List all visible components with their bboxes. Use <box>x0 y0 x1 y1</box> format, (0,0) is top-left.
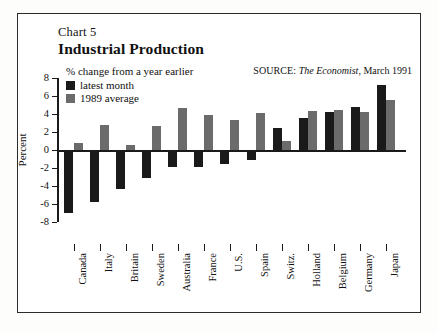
x-axis-tick-label: Holland <box>312 253 323 287</box>
x-axis-tick <box>386 244 387 251</box>
bar-group <box>351 78 377 222</box>
bar-latest-month <box>273 128 282 150</box>
x-axis-tick <box>100 244 101 251</box>
bar-group <box>325 78 351 222</box>
plot-area: 86420-2-4-6-8 <box>57 78 406 222</box>
bar-1989-average <box>256 113 265 150</box>
x-axis-tick-label: Australia <box>182 253 193 292</box>
y-axis-tick <box>52 222 57 223</box>
x-axis-tick <box>178 244 179 251</box>
y-axis-tick-label: 8 <box>44 73 49 84</box>
bar-1989-average <box>152 126 161 150</box>
bar-latest-month <box>220 150 229 164</box>
y-axis-tick-label: -4 <box>40 181 49 192</box>
x-axis-tick-label: France <box>208 253 219 282</box>
x-axis-labels: CanadaItalyBritainSwedenAustraliaFranceU… <box>57 253 406 313</box>
bar-latest-month <box>194 150 203 167</box>
y-axis-tick-label: -2 <box>40 163 49 174</box>
y-axis-tick-label: -6 <box>40 199 49 210</box>
y-axis-tick <box>52 168 57 169</box>
x-axis-tick-label: Sweden <box>156 253 167 286</box>
y-axis-title: Percent <box>17 134 28 167</box>
source-date: , March 1991 <box>358 65 412 76</box>
bar-group <box>247 78 273 222</box>
bar-latest-month <box>299 118 308 150</box>
y-axis-tick <box>52 114 57 115</box>
x-axis-tick <box>360 244 361 251</box>
y-axis-tick <box>52 132 57 133</box>
bar-latest-month <box>116 150 125 189</box>
bar-1989-average <box>74 143 83 150</box>
bar-group <box>90 78 116 222</box>
x-axis-tick <box>230 244 231 251</box>
bar-1989-average <box>100 125 109 150</box>
page-title: Industrial Production <box>58 41 204 57</box>
bar-1989-average <box>230 120 239 150</box>
y-axis-tick-label: -8 <box>40 217 49 228</box>
y-axis-tick-label: 2 <box>44 127 49 138</box>
x-axis-tick <box>256 244 257 251</box>
bar-latest-month <box>377 85 386 150</box>
x-axis-tick <box>282 244 283 251</box>
y-axis-tick <box>52 78 57 79</box>
bar-latest-month <box>168 150 177 167</box>
bar-group <box>299 78 325 222</box>
bar-group <box>116 78 142 222</box>
bar-1989-average <box>334 110 343 150</box>
x-axis-tick-label: Germany <box>364 253 375 292</box>
x-axis-tick <box>308 244 309 251</box>
bar-1989-average <box>308 111 317 150</box>
bar-group <box>142 78 168 222</box>
bar-group <box>64 78 90 222</box>
bar-group <box>194 78 220 222</box>
x-axis-ticks <box>57 244 406 251</box>
x-axis-tick <box>74 244 75 251</box>
y-axis-tick <box>52 96 57 97</box>
bar-latest-month <box>247 150 256 160</box>
x-axis-tick-label: Canada <box>78 253 89 285</box>
bar-group <box>220 78 246 222</box>
y-axis-tick-label: 0 <box>44 145 49 156</box>
bar-1989-average <box>386 100 395 150</box>
bar-latest-month <box>325 112 334 150</box>
bar-latest-month <box>351 107 360 150</box>
bar-1989-average <box>282 141 291 150</box>
x-axis-tick-label: Switz. <box>286 253 297 280</box>
x-axis-tick-label: Italy <box>104 253 115 272</box>
chart-number: Chart 5 <box>58 26 97 39</box>
source-label: SOURCE: <box>253 65 296 76</box>
y-axis-tick <box>52 186 57 187</box>
x-axis-tick <box>152 244 153 251</box>
x-axis-tick <box>334 244 335 251</box>
source-note: SOURCE: The Economist, March 1991 <box>253 66 412 76</box>
y-axis-tick-label: 4 <box>44 109 49 120</box>
bar-group <box>273 78 299 222</box>
x-axis-tick <box>126 244 127 251</box>
x-axis-tick-label: Britain <box>130 253 141 282</box>
bar-1989-average <box>204 115 213 150</box>
x-axis-tick <box>204 244 205 251</box>
bar-1989-average <box>178 108 187 150</box>
bar-latest-month <box>142 150 151 178</box>
bar-latest-month <box>90 150 99 202</box>
chart-page: Chart 5 Industrial Production % change f… <box>0 0 438 332</box>
y-axis-tick <box>52 150 57 151</box>
y-axis-tick <box>52 204 57 205</box>
y-axis-tick-label: 6 <box>44 91 49 102</box>
x-axis-tick-label: Japan <box>390 253 401 277</box>
bar-group <box>377 78 403 222</box>
x-axis-tick-label: U.S. <box>234 253 245 272</box>
chart-subcaption: % change from a year earlier <box>66 66 193 77</box>
x-axis-tick-label: Spain <box>260 253 271 277</box>
source-publication: The Economist <box>299 65 359 76</box>
bar-group <box>168 78 194 222</box>
bar-1989-average <box>360 112 369 150</box>
bar-1989-average <box>126 145 135 150</box>
bar-latest-month <box>64 150 73 213</box>
x-axis-tick-label: Belgium <box>338 253 349 289</box>
